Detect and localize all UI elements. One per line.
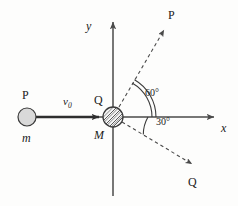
target-top-label: Q <box>94 94 103 106</box>
velocity-subscript: 0 <box>68 101 72 110</box>
target-mass-label: M <box>94 129 104 141</box>
x-axis-label: x <box>221 122 226 134</box>
fragment-q-label: Q <box>188 176 197 188</box>
angle-30-value: 30 <box>156 116 166 127</box>
incoming-particle-circle <box>18 108 36 126</box>
physics-collision-diagram: y x P m v0 Q M P Q 60° 30° <box>0 0 238 206</box>
angle-60-value: 60 <box>145 87 155 98</box>
angle-30-unit: ° <box>166 116 170 127</box>
angle-60-unit: ° <box>155 87 159 98</box>
angle-60-arc <box>133 80 157 117</box>
incoming-particle-label: P <box>22 89 29 101</box>
velocity-label: v0 <box>63 96 72 110</box>
fragment-p-label: P <box>168 9 175 21</box>
angle-60-label: 60° <box>145 88 159 98</box>
y-axis-label: y <box>86 20 91 32</box>
angle-30-arc <box>143 117 148 135</box>
diagram-canvas <box>0 0 238 206</box>
target-mass-circle <box>99 103 133 137</box>
fragment-q-ray <box>122 122 192 164</box>
incoming-mass-label: m <box>22 132 31 144</box>
angle-30-label: 30° <box>156 117 170 127</box>
